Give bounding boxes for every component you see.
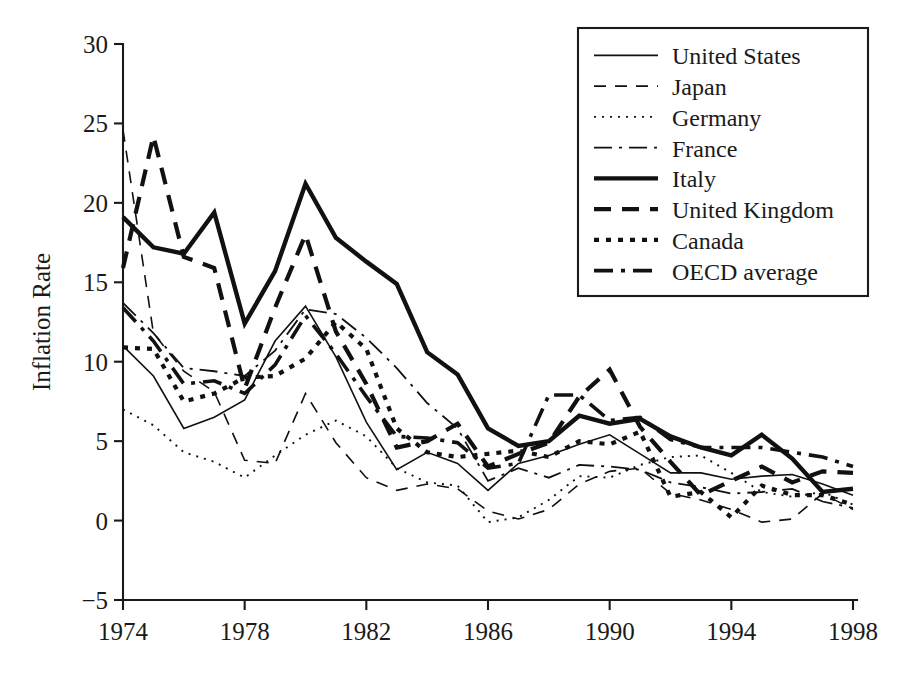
x-tick-label: 1978 — [220, 618, 270, 645]
y-tick-label: 5 — [96, 428, 109, 455]
chart-canvas: −5051015202530 1974197819821986199019941… — [0, 0, 911, 685]
y-tick-label: 0 — [96, 508, 109, 535]
legend-item-label: Italy — [672, 166, 716, 192]
y-axis: −5051015202530 — [81, 31, 123, 614]
x-tick-label: 1986 — [463, 618, 513, 645]
x-axis: 1974197819821986199019941998 — [98, 600, 878, 645]
chart-legend: United StatesJapanGermanyFranceItalyUnit… — [578, 28, 868, 296]
legend-item-label: United States — [672, 43, 801, 69]
y-tick-label: 20 — [83, 190, 108, 217]
x-tick-label: 1998 — [828, 618, 878, 645]
inflation-rate-line-chart: −5051015202530 1974197819821986199019941… — [0, 0, 911, 685]
x-tick-label: 1990 — [585, 618, 635, 645]
series-line — [123, 322, 853, 517]
y-tick-label: 25 — [83, 110, 108, 137]
y-tick-label: 30 — [83, 31, 108, 58]
legend-item-label: France — [672, 136, 737, 162]
y-tick-label: 15 — [83, 269, 108, 296]
series-line — [123, 308, 853, 468]
x-tick-label: 1974 — [98, 618, 149, 645]
y-axis-title: Inflation Rate — [28, 253, 55, 391]
legend-item-label: United Kingdom — [672, 197, 834, 223]
x-tick-label: 1994 — [706, 618, 757, 645]
x-tick-label: 1982 — [341, 618, 391, 645]
legend-item-label: Canada — [672, 228, 744, 254]
legend-item-label: Germany — [672, 105, 761, 131]
y-tick-label: −5 — [81, 587, 108, 614]
legend-item-label: Japan — [672, 74, 727, 100]
legend-item-label: OECD average — [672, 259, 818, 285]
y-tick-label: 10 — [83, 349, 108, 376]
